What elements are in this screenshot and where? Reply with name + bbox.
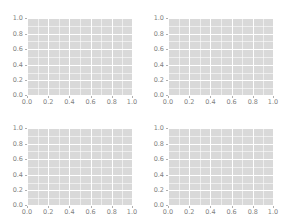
gridline-major-horizontal (27, 34, 133, 35)
x-axis-tick-label: 0.8 (243, 99, 263, 106)
y-axis-tick (25, 159, 27, 160)
gridline-major-vertical (91, 18, 92, 96)
gridline-minor-horizontal (168, 167, 274, 168)
x-axis-tick-label: 0.2 (179, 209, 199, 216)
y-axis-tick (25, 175, 27, 176)
y-axis-tick-label: 1.0 (3, 15, 23, 22)
y-axis-tick (166, 49, 168, 50)
gridline-major-vertical (189, 18, 190, 96)
gridline-major-vertical (253, 128, 254, 206)
gridline-major-vertical (168, 18, 169, 96)
y-axis-tick (25, 49, 27, 50)
gridline-minor-horizontal (27, 57, 133, 58)
x-axis-tick-label: 1.0 (122, 209, 142, 216)
plot-panel (168, 18, 274, 96)
y-axis-tick-label: 0.8 (144, 31, 164, 38)
gridline-minor-horizontal (168, 151, 274, 152)
x-axis-tick-label: 1.0 (122, 99, 142, 106)
gridline-major-vertical (91, 128, 92, 206)
gridline-major-horizontal (168, 18, 274, 19)
gridline-major-vertical (132, 128, 133, 206)
x-axis-tick-label: 0.8 (102, 209, 122, 216)
gridline-major-horizontal (27, 159, 133, 160)
gridline-major-horizontal (168, 34, 274, 35)
gridline-major-horizontal (168, 128, 274, 129)
y-axis-tick (25, 18, 27, 19)
gridline-major-horizontal (27, 65, 133, 66)
y-axis-tick (166, 128, 168, 129)
y-axis-tick-label: 0.6 (144, 46, 164, 53)
gridline-major-horizontal (168, 144, 274, 145)
gridline-major-vertical (69, 18, 70, 96)
gridline-major-horizontal (27, 175, 133, 176)
plot-panel (27, 128, 133, 206)
gridline-major-horizontal (168, 159, 274, 160)
y-axis-tick-label: 1.0 (3, 125, 23, 132)
y-axis-tick-label: 0.6 (3, 46, 23, 53)
gridline-major-horizontal (27, 49, 133, 50)
gridline-major-horizontal (27, 205, 133, 206)
y-axis-tick (166, 175, 168, 176)
gridline-major-horizontal (168, 205, 274, 206)
gridline-minor-horizontal (168, 183, 274, 184)
gridline-major-vertical (48, 128, 49, 206)
y-axis-tick (25, 80, 27, 81)
subplot-r0-c0: 0.00.20.40.60.81.00.00.20.40.60.81.0 (0, 0, 141, 110)
y-axis-tick-label: 0.6 (3, 156, 23, 163)
y-axis-tick-label: 0.2 (144, 187, 164, 194)
gridline-major-horizontal (168, 190, 274, 191)
gridline-major-vertical (189, 128, 190, 206)
gridline-major-vertical (112, 18, 113, 96)
y-axis-tick-label: 0.0 (144, 92, 164, 99)
x-axis-tick-label: 0.0 (17, 99, 37, 106)
x-axis-tick-label: 0.8 (243, 209, 263, 216)
subplot-r0-c1: 0.00.20.40.60.81.00.00.20.40.60.81.0 (141, 0, 282, 110)
gridline-major-horizontal (27, 190, 133, 191)
x-axis-tick-label: 0.0 (158, 209, 178, 216)
x-axis-tick-label: 0.6 (81, 209, 101, 216)
gridline-major-horizontal (27, 18, 133, 19)
gridline-minor-horizontal (27, 183, 133, 184)
x-axis-tick-label: 1.0 (263, 99, 282, 106)
gridline-minor-horizontal (27, 151, 133, 152)
y-axis-tick-label: 0.6 (144, 156, 164, 163)
gridline-minor-horizontal (168, 136, 274, 137)
gridline-major-vertical (232, 128, 233, 206)
subplot-r1-c1: 0.00.20.40.60.81.00.00.20.40.60.81.0 (141, 110, 282, 220)
x-axis-tick-label: 0.6 (222, 209, 242, 216)
y-axis-tick-label: 1.0 (144, 125, 164, 132)
gridline-major-vertical (232, 18, 233, 96)
gridline-minor-horizontal (168, 41, 274, 42)
plot-panel (168, 128, 274, 206)
x-axis-tick-label: 0.4 (59, 99, 79, 106)
x-axis-tick-label: 0.2 (38, 209, 58, 216)
y-axis-tick-label: 1.0 (144, 15, 164, 22)
gridline-major-horizontal (168, 49, 274, 50)
x-axis-tick-label: 0.4 (200, 99, 220, 106)
y-axis-tick-label: 0.2 (144, 77, 164, 84)
gridline-major-horizontal (27, 80, 133, 81)
gridline-major-horizontal (168, 95, 274, 96)
gridline-major-vertical (132, 18, 133, 96)
x-axis-tick-label: 0.0 (158, 99, 178, 106)
y-axis-tick (25, 190, 27, 191)
gridline-minor-horizontal (168, 26, 274, 27)
y-axis-tick-label: 0.8 (144, 141, 164, 148)
y-axis-tick (166, 34, 168, 35)
y-axis-tick-label: 0.8 (3, 31, 23, 38)
gridline-major-vertical (273, 18, 274, 96)
figure-canvas: 0.00.20.40.60.81.00.00.20.40.60.81.00.00… (0, 0, 282, 220)
gridline-major-horizontal (168, 175, 274, 176)
x-axis-tick-label: 0.6 (81, 99, 101, 106)
y-axis-tick-label: 0.4 (144, 62, 164, 69)
y-axis-tick-label: 0.4 (3, 172, 23, 179)
y-axis-tick (166, 65, 168, 66)
y-axis-tick-label: 0.2 (3, 187, 23, 194)
gridline-minor-horizontal (27, 136, 133, 137)
y-axis-tick-label: 0.8 (3, 141, 23, 148)
x-axis-tick-label: 0.2 (179, 99, 199, 106)
y-axis-tick (25, 65, 27, 66)
y-axis-tick-label: 0.4 (144, 172, 164, 179)
gridline-minor-horizontal (27, 41, 133, 42)
gridline-major-vertical (27, 18, 28, 96)
